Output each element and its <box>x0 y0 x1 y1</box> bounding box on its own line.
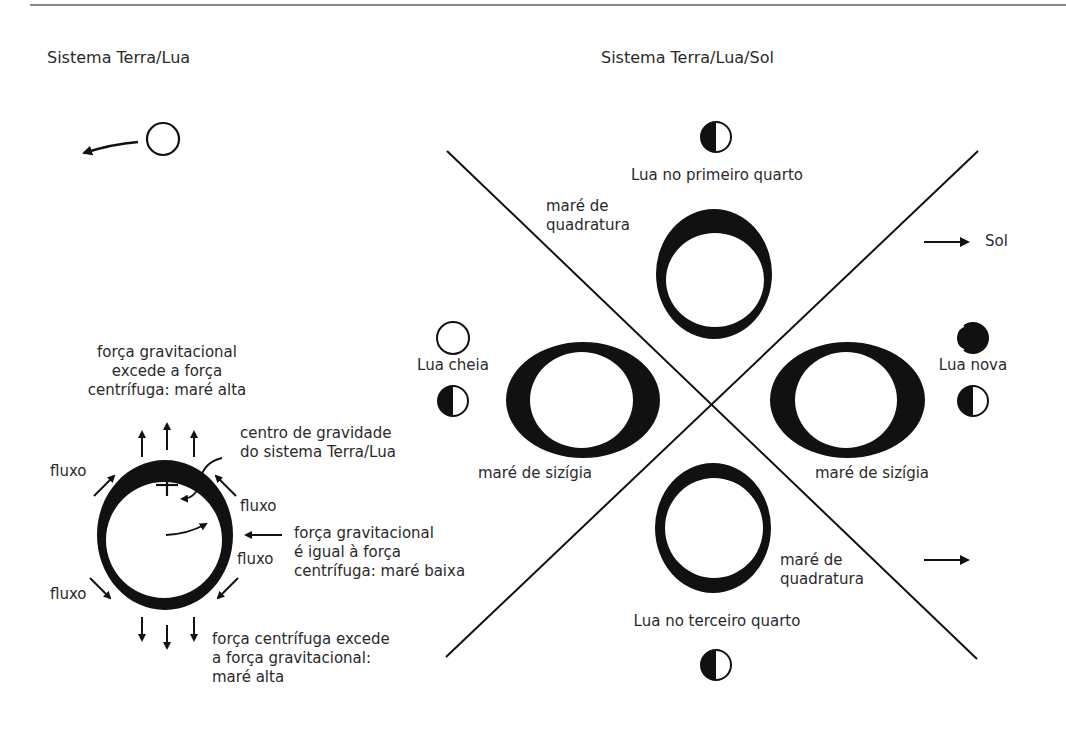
label-line: é igual à força <box>294 543 465 562</box>
label-line: centrífuga: maré baixa <box>294 562 465 581</box>
flow-label-upper-left: fluxo <box>50 462 87 481</box>
half-moon-icon <box>438 386 468 416</box>
label-line: força centrífuga excede <box>212 630 390 649</box>
side-force-label: força gravitacional é igual à força cent… <box>294 524 465 581</box>
half-moon-icon <box>701 650 731 680</box>
arrow-left-icon <box>84 142 138 153</box>
spring-tide-label-right: maré de sizígia <box>815 464 929 483</box>
moon-circle-icon <box>147 123 179 155</box>
label-line: quadratura <box>546 216 630 235</box>
neap-tide-label-top: maré de quadratura <box>546 197 630 235</box>
spring-tide-label-left: maré de sizígia <box>478 464 592 483</box>
panel-title-earth-moon: Sistema Terra/Lua <box>47 48 190 67</box>
tidal-bulge-icon <box>770 342 925 458</box>
full-moon-label: Lua cheia <box>405 356 501 375</box>
full-moon-icon <box>437 322 469 354</box>
label-line: maré de <box>546 197 630 216</box>
label-line: excede a força <box>60 362 274 381</box>
panel-title-earth-moon-sun: Sistema Terra/Lua/Sol <box>601 48 774 67</box>
up-arrows-icon <box>142 424 194 457</box>
flow-label-upper-right: fluxo <box>240 497 277 516</box>
label-line: força gravitacional <box>60 343 274 362</box>
label-line: força gravitacional <box>294 524 465 543</box>
label-line: quadratura <box>780 570 864 589</box>
label-line: maré de <box>780 551 864 570</box>
tidal-bulge-icon <box>506 342 660 458</box>
tidal-bulge-icon <box>655 463 771 593</box>
label-line: do sistema Terra/Lua <box>240 443 396 462</box>
earth-ring-icon <box>97 460 233 610</box>
third-quarter-label: Lua no terceiro quarto <box>600 612 834 631</box>
neap-tide-label-bottom: maré de quadratura <box>780 551 864 589</box>
flow-label-right: fluxo <box>237 550 274 569</box>
sun-label: Sol <box>985 232 1008 251</box>
tidal-bulge-icon <box>656 209 772 339</box>
label-line: a força gravitacional: <box>212 649 390 668</box>
center-gravity-label: centro de gravidade do sistema Terra/Lua <box>240 424 396 462</box>
down-arrows-icon <box>142 617 194 648</box>
top-force-label: força gravitacional excede a força centr… <box>60 343 274 400</box>
half-moon-icon <box>701 122 731 152</box>
label-line: centro de gravidade <box>240 424 396 443</box>
first-quarter-label: Lua no primeiro quarto <box>600 166 834 185</box>
new-moon-icon <box>956 322 989 354</box>
flow-label-lower-left: fluxo <box>50 585 87 604</box>
new-moon-label: Lua nova <box>925 356 1021 375</box>
label-line: maré alta <box>212 668 390 687</box>
label-line: centrífuga: maré alta <box>60 381 274 400</box>
bottom-force-label: força centrífuga excede a força gravitac… <box>212 630 390 687</box>
half-moon-icon <box>958 386 988 416</box>
